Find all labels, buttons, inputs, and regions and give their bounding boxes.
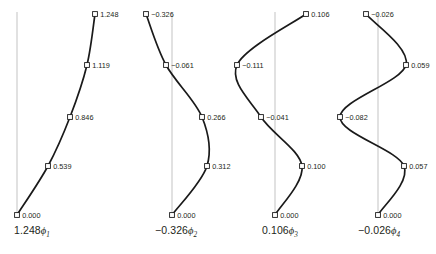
data-point-label-mode-1-3: 1.119 bbox=[92, 61, 110, 70]
data-point-marker-mode-2-0 bbox=[170, 213, 175, 218]
data-point-marker-mode-2-3 bbox=[164, 63, 169, 68]
data-point-label-mode-2-3: −0.061 bbox=[171, 61, 194, 70]
data-point-marker-mode-1-2 bbox=[68, 115, 73, 120]
data-point-label-mode-1-0: 0.000 bbox=[22, 211, 40, 220]
data-point-label-mode-2-1: 0.312 bbox=[212, 162, 230, 171]
data-point-label-mode-1-2: 0.846 bbox=[75, 113, 93, 122]
mode-shape-plot-canvas: 0.0000.5390.8461.1191.2480.0000.3120.266… bbox=[0, 0, 436, 254]
data-point-marker-mode-1-3 bbox=[85, 63, 90, 68]
data-point-label-mode-3-1: 0.100 bbox=[307, 162, 325, 171]
caption-mode-2-subscript: 2 bbox=[194, 231, 198, 239]
data-point-label-mode-4-1: 0.057 bbox=[409, 162, 427, 171]
data-point-marker-mode-4-3 bbox=[404, 63, 409, 68]
data-point-label-mode-4-0: 0.000 bbox=[383, 211, 401, 220]
data-point-label-mode-4-3: 0.059 bbox=[411, 61, 429, 70]
data-point-marker-mode-4-4 bbox=[364, 12, 369, 17]
caption-mode-1-subscript: 1 bbox=[46, 231, 50, 239]
caption-mode-3-subscript: 3 bbox=[294, 231, 298, 239]
caption-mode-3: 0.106ϕ3 bbox=[262, 224, 298, 239]
data-point-label-mode-3-0: 0.000 bbox=[280, 211, 298, 220]
caption-mode-2-coefficient: −0.326 bbox=[155, 224, 188, 236]
caption-mode-3-coefficient: 0.106 bbox=[262, 224, 289, 236]
data-point-marker-mode-1-1 bbox=[46, 164, 51, 169]
caption-mode-1: 1.248ϕ1 bbox=[14, 224, 50, 239]
mode-shape-figure: 0.0000.5390.8461.1191.2480.0000.3120.266… bbox=[0, 0, 436, 254]
data-point-labels-layer: 0.0000.5390.8461.1191.2480.0000.3120.266… bbox=[22, 10, 429, 220]
data-point-label-mode-2-4: −0.326 bbox=[151, 10, 174, 19]
data-point-marker-mode-2-4 bbox=[144, 12, 149, 17]
data-point-marker-mode-3-0 bbox=[273, 213, 278, 218]
data-point-marker-mode-4-2 bbox=[338, 115, 343, 120]
data-point-marker-mode-3-2 bbox=[259, 115, 264, 120]
data-point-marker-mode-1-0 bbox=[15, 213, 20, 218]
data-point-marker-mode-2-2 bbox=[200, 115, 205, 120]
data-point-label-mode-1-4: 1.248 bbox=[100, 10, 118, 19]
data-point-marker-mode-1-4 bbox=[93, 12, 98, 17]
caption-mode-4: −0.026ϕ4 bbox=[358, 224, 400, 239]
data-point-label-mode-3-3: −0.111 bbox=[242, 61, 263, 70]
data-point-marker-mode-3-3 bbox=[235, 63, 240, 68]
caption-mode-4-subscript: 4 bbox=[397, 231, 401, 239]
data-point-label-mode-2-0: 0.000 bbox=[177, 211, 195, 220]
caption-mode-2: −0.326ϕ2 bbox=[155, 224, 197, 239]
data-point-label-mode-2-2: 0.266 bbox=[207, 113, 225, 122]
data-point-marker-mode-2-1 bbox=[205, 164, 210, 169]
data-point-marker-mode-4-0 bbox=[376, 213, 381, 218]
data-point-label-mode-3-4: 0.106 bbox=[311, 10, 329, 19]
data-point-label-mode-1-1: 0.539 bbox=[53, 162, 71, 171]
caption-mode-4-coefficient: −0.026 bbox=[358, 224, 391, 236]
data-point-marker-mode-4-1 bbox=[402, 164, 407, 169]
data-point-marker-mode-3-1 bbox=[300, 164, 305, 169]
data-point-label-mode-3-2: −0.041 bbox=[266, 113, 289, 122]
data-point-label-mode-4-2: −0.082 bbox=[345, 113, 368, 122]
caption-mode-1-coefficient: 1.248 bbox=[14, 224, 41, 236]
data-point-marker-mode-3-4 bbox=[304, 12, 309, 17]
data-point-label-mode-4-4: −0.026 bbox=[371, 10, 394, 19]
